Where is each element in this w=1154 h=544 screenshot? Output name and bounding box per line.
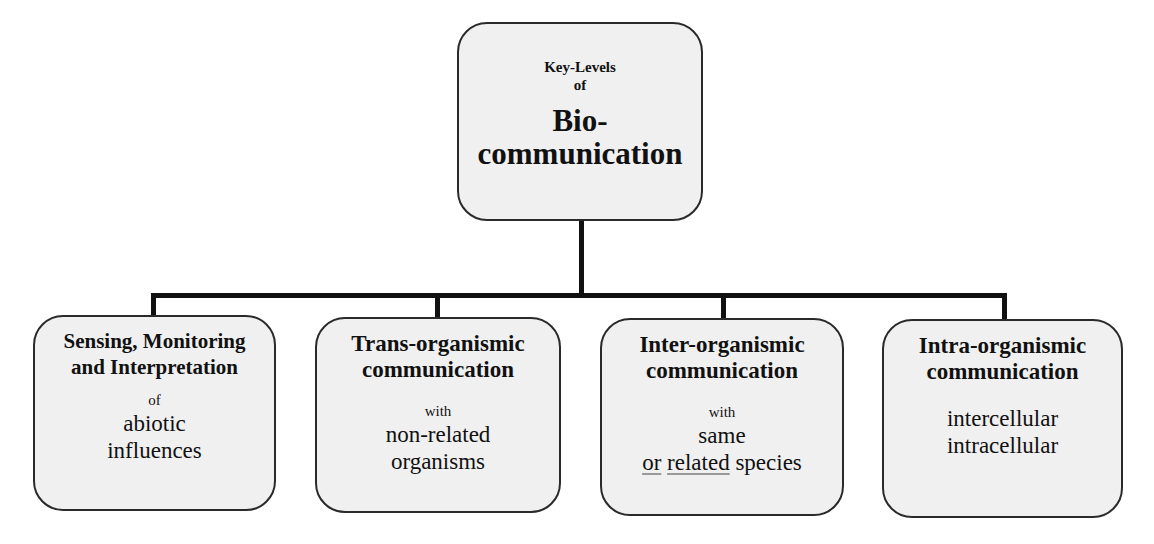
node-3-title-line2: communication xyxy=(602,358,842,384)
connector-drop-4 xyxy=(1002,293,1007,320)
node-4-body-line1: intercellular xyxy=(884,405,1121,432)
node-3-body-line1: same xyxy=(602,422,842,449)
node-4-title-line1: Intra-organismic xyxy=(884,333,1121,359)
node-3-connector: with xyxy=(602,402,842,422)
node-3-body-line2: or related species xyxy=(602,449,842,476)
connector-trunk xyxy=(579,220,584,298)
connector-horizontal-bar xyxy=(151,293,1007,298)
connector-drop-1 xyxy=(151,293,156,316)
node-1-title-line1: Sensing, Monitoring xyxy=(35,328,274,354)
root-label-line1: Key-Levels xyxy=(459,58,701,76)
node-2-title-line2: communication xyxy=(317,357,559,383)
root-title-line2: communication xyxy=(459,137,701,170)
node-2-title-line1: Trans-organismic xyxy=(317,331,559,357)
node-1-body-line2: influences xyxy=(35,437,274,464)
node-sensing-monitoring: Sensing, Monitoring and Interpretation o… xyxy=(33,315,276,511)
node-3-title-line1: Inter-organismic xyxy=(602,332,842,358)
node-1-body-line1: abiotic xyxy=(35,410,274,437)
node-3-body-related: related xyxy=(667,450,730,475)
node-2-body-line1: non-related xyxy=(317,421,559,448)
root-node: Key-Levels of Bio- communication xyxy=(457,22,703,221)
connector-drop-3 xyxy=(721,293,726,319)
node-intra-organismic: Intra-organismic communication intercell… xyxy=(882,319,1123,518)
node-3-body-or: or xyxy=(642,450,661,475)
root-label-line2: of xyxy=(459,76,701,94)
node-3-body-species: species xyxy=(735,450,801,475)
node-4-title-line2: communication xyxy=(884,359,1121,385)
node-1-title-line2: and Interpretation xyxy=(35,354,274,380)
root-title-line1: Bio- xyxy=(459,104,701,137)
node-inter-organismic: Inter-organismic communication with same… xyxy=(600,318,844,516)
node-2-body-line2: organisms xyxy=(317,448,559,475)
node-4-body-line2: intracellular xyxy=(884,432,1121,459)
connector-drop-2 xyxy=(435,293,440,318)
node-trans-organismic: Trans-organismic communication with non-… xyxy=(315,317,561,513)
node-1-connector: of xyxy=(35,390,274,410)
node-2-connector: with xyxy=(317,401,559,421)
